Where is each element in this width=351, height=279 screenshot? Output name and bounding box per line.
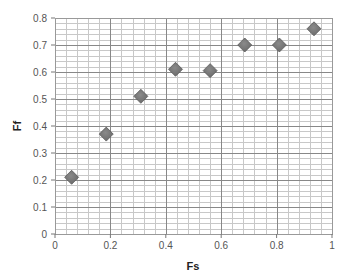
x-tick-label: 0.6 [214, 240, 228, 251]
data-point-diamond [134, 89, 148, 103]
data-point-diamond [99, 127, 113, 141]
y-tick-label: 0.6 [33, 67, 47, 78]
x-axis-ticks: 00.20.40.60.81 [52, 234, 335, 251]
y-axis-ticks: 00.10.20.30.40.50.60.70.8 [33, 13, 55, 240]
y-tick-label: 0 [41, 229, 47, 240]
x-tick-label: 0.2 [103, 240, 117, 251]
x-tick-label: 0 [52, 240, 58, 251]
data-point-diamond [168, 62, 182, 76]
data-point-diamond [203, 64, 217, 78]
x-axis-label: Fs [187, 260, 200, 272]
y-tick-label: 0.5 [33, 94, 47, 105]
y-tick-label: 0.7 [33, 40, 47, 51]
x-tick-label: 0.8 [270, 240, 284, 251]
y-tick-label: 0.8 [33, 13, 47, 24]
y-tick-label: 0.2 [33, 175, 47, 186]
scatter-chart: 00.20.40.60.81 00.10.20.30.40.50.60.70.8… [0, 0, 351, 279]
y-tick-label: 0.1 [33, 202, 47, 213]
x-tick-label: 0.4 [159, 240, 173, 251]
y-axis-label: Ff [11, 120, 23, 131]
y-tick-label: 0.4 [33, 121, 47, 132]
y-tick-label: 0.3 [33, 148, 47, 159]
x-tick-label: 1 [329, 240, 335, 251]
data-points [65, 22, 321, 185]
